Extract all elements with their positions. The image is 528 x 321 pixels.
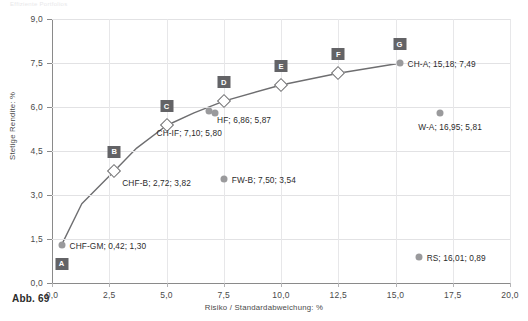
data-point-marker: [58, 241, 65, 248]
data-point-label: HF; 6,86; 5,87: [217, 115, 271, 125]
x-axis-title: Risiko / Standardabweichung: %: [0, 303, 528, 312]
x-axis-tick: [224, 283, 225, 287]
x-axis-tick: [396, 283, 397, 287]
data-point-label: CHF-GM; 0,42; 1,30: [70, 241, 147, 251]
y-axis-tick: [47, 19, 52, 20]
gridline-vertical: [224, 19, 225, 283]
frontier-point-badge-a: A: [55, 258, 68, 270]
x-axis-tick-label: 7,5: [218, 290, 230, 300]
data-point-label: CH-IF; 7,10; 5,80: [157, 128, 222, 138]
data-point-marker: [396, 60, 403, 67]
y-axis-tick-label: 7,5: [31, 58, 43, 68]
gridline-vertical: [167, 19, 168, 283]
figure-caption: Abb. 69: [12, 293, 50, 304]
y-axis-tick-label: 3,0: [31, 190, 43, 200]
y-axis-tick-label: 6,0: [31, 102, 43, 112]
x-axis-tick: [281, 283, 282, 287]
data-point-label: W-A; 16,95; 5,81: [418, 122, 482, 132]
y-axis-tick: [47, 63, 52, 64]
y-axis-tick: [47, 239, 52, 240]
y-axis-tick-label: 9,0: [31, 14, 43, 24]
x-axis-tick: [338, 283, 339, 287]
y-axis-tick-label: 4,5: [31, 146, 43, 156]
data-point-marker: [415, 253, 422, 260]
frontier-point-badge-f: F: [332, 48, 345, 60]
top-strip-text: Effiziente Portfolios: [10, 1, 68, 7]
x-axis-tick-label: 17,5: [444, 290, 461, 300]
y-axis-tick-label: 1,5: [31, 234, 43, 244]
gridline-vertical: [510, 19, 511, 283]
data-point-label: RS; 16,01; 0,89: [427, 253, 486, 263]
x-axis-tick-label: 2,5: [103, 290, 115, 300]
y-axis-tick-label: 0,0: [31, 278, 43, 288]
y-axis-tick: [47, 195, 52, 196]
x-axis-tick-label: 12,5: [330, 290, 347, 300]
x-axis-tick: [109, 283, 110, 287]
data-point-marker: [220, 176, 227, 183]
x-axis-tick-label: 15,0: [387, 290, 404, 300]
frontier-point-badge-d: D: [217, 76, 230, 88]
y-axis-title: Stetige Rendite: %: [8, 92, 17, 160]
x-axis-tick: [52, 283, 53, 287]
frontier-point-badge-g: G: [393, 38, 406, 50]
y-axis-tick: [47, 107, 52, 108]
gridline-vertical: [281, 19, 282, 283]
x-axis-tick: [510, 283, 511, 287]
y-axis-tick: [47, 151, 52, 152]
data-point-label: FW-B; 7,50; 3,54: [232, 175, 296, 185]
x-axis-tick: [453, 283, 454, 287]
data-point-label: CHF-B; 2,72; 3,82: [122, 178, 191, 188]
x-axis-tick-label: 20,0: [501, 290, 518, 300]
x-axis-tick-label: 10,0: [272, 290, 289, 300]
gridline-vertical: [396, 19, 397, 283]
x-axis-tick: [167, 283, 168, 287]
data-point-label: CH-A; 15,18; 7,49: [408, 59, 476, 69]
x-axis-tick-label: 5,0: [160, 290, 172, 300]
frontier-point-badge-b: B: [108, 146, 121, 158]
data-point-marker: [437, 109, 444, 116]
plot-area: 0,01,53,04,56,07,59,00,02,55,07,510,012,…: [52, 19, 510, 283]
chart-figure: Effiziente Portfolios Stetige Rendite: %…: [0, 0, 528, 321]
frontier-point-badge-c: C: [160, 100, 173, 112]
frontier-point-badge-e: E: [275, 60, 288, 72]
